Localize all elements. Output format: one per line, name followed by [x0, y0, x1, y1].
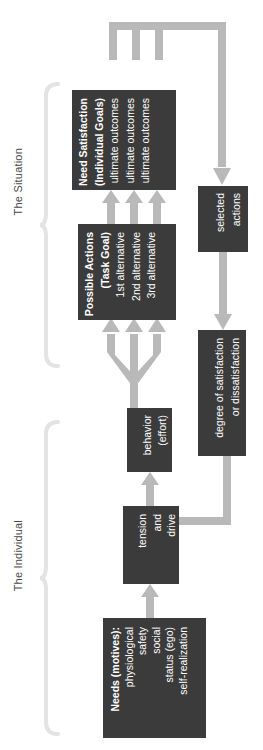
- node-possible-actions-line-1: (Task Goal): [100, 232, 111, 288]
- bracket-label-the-individual: The Individual: [12, 520, 24, 591]
- node-possible-actions-line-0: Possible Actions: [84, 232, 95, 316]
- node-need-satisfaction-line-2: ultimate outcomes: [109, 98, 120, 183]
- node-needs-line-2: safety: [137, 627, 148, 655]
- node-tension-line-1: and: [152, 514, 163, 532]
- node-possible-actions-line-4: 3rd alternative: [146, 232, 157, 299]
- node-need-satisfaction: Need Satisfaction (Individual Goals) ult…: [72, 90, 176, 190]
- node-behavior-line-0: behavior: [142, 415, 153, 455]
- node-selected-actions-line-0: selected: [215, 193, 226, 232]
- node-need-satisfaction-line-3: ultimate outcomes: [125, 98, 136, 183]
- node-possible-actions: Possible Actions (Task Goal) 1st alterna…: [78, 224, 176, 320]
- node-tension-and-drive: tension and drive: [123, 506, 179, 584]
- bracket-label-the-situation: The Situation: [12, 148, 24, 215]
- node-possible-actions-line-2: 1st alternative: [115, 232, 126, 297]
- node-needs-line-3: social: [151, 627, 162, 654]
- bracket-the-individual: [38, 418, 62, 738]
- node-tension-line-0: tension: [137, 514, 148, 548]
- node-possible-actions-line-3: 2nd alternative: [131, 232, 142, 301]
- bracket-the-situation: [38, 80, 62, 370]
- node-needs-line-4: status (ego): [164, 627, 175, 682]
- node-behavior-line-1: (effort): [157, 415, 168, 446]
- node-degree-line-0: degree of satisfaction: [214, 338, 225, 438]
- node-needs: Needs (motives): physiological safety so…: [103, 618, 206, 738]
- node-degree-of-satisfaction: degree of satisfaction or dissatisfactio…: [198, 330, 246, 456]
- node-selected-actions-line-1: actions: [231, 193, 242, 226]
- node-selected-actions: selected actions: [198, 186, 248, 252]
- node-behavior: behavior (effort): [127, 408, 172, 472]
- node-needs-line-1: physiological: [124, 627, 135, 687]
- node-tension-line-2: drive: [166, 514, 177, 537]
- node-needs-line-0: Needs (motives):: [110, 627, 121, 712]
- node-degree-line-1: or dissatisfaction: [230, 338, 241, 416]
- node-need-satisfaction-line-0: Need Satisfaction: [78, 98, 89, 186]
- diagram-canvas: The Individual The Situation: [0, 0, 263, 750]
- node-need-satisfaction-line-1: (Individual Goals): [94, 98, 105, 186]
- node-needs-line-5: self-realization: [178, 627, 189, 695]
- node-need-satisfaction-line-4: ultimate outcomes: [140, 98, 151, 183]
